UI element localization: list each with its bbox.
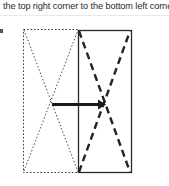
caption-text: the top right corner to the bottom left …: [3, 0, 169, 12]
figure-page: the top right corner to the bottom left …: [0, 0, 169, 186]
horizontal-divider: [0, 15, 169, 16]
ghost-diagonal-bottom-left-to-top-right: [24, 30, 78, 171]
diagram-figure: [0, 18, 169, 186]
diagram-svg: [0, 18, 169, 186]
